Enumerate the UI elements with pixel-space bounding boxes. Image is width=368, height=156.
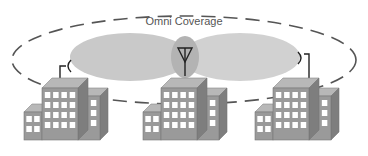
window: [45, 122, 51, 128]
window: [26, 126, 32, 132]
window: [301, 92, 307, 98]
window: [180, 92, 186, 98]
window: [34, 126, 40, 132]
window: [301, 122, 307, 128]
window: [257, 126, 263, 132]
window: [276, 102, 282, 108]
window: [164, 112, 170, 118]
window: [172, 92, 178, 98]
window: [284, 102, 290, 108]
window: [45, 112, 51, 118]
window: [189, 92, 195, 98]
window: [45, 92, 51, 98]
window: [145, 116, 151, 122]
window: [91, 110, 97, 116]
window: [145, 126, 151, 132]
window: [210, 120, 216, 126]
window: [180, 102, 186, 108]
window: [180, 122, 186, 128]
building-right-tower-side: [309, 78, 319, 140]
window: [292, 122, 298, 128]
diagram-title: Omni Coverage: [145, 15, 222, 27]
building-center: [143, 78, 227, 140]
window: [189, 112, 195, 118]
window: [70, 92, 76, 98]
window: [257, 116, 263, 122]
window: [34, 116, 40, 122]
window: [284, 112, 290, 118]
window: [70, 122, 76, 128]
window: [322, 110, 328, 116]
dish-antenna-left-icon: [60, 60, 71, 80]
window: [322, 100, 328, 106]
omni-coverage-diagram: Omni Coverage: [0, 0, 368, 156]
window: [61, 112, 67, 118]
window: [189, 122, 195, 128]
window: [189, 102, 195, 108]
window: [276, 92, 282, 98]
window: [91, 120, 97, 126]
building-right: [255, 78, 339, 140]
window: [210, 100, 216, 106]
window: [284, 122, 290, 128]
window: [53, 122, 59, 128]
window: [61, 122, 67, 128]
building-right-right-wing-side: [331, 88, 339, 140]
window: [53, 92, 59, 98]
window: [210, 110, 216, 116]
window: [284, 92, 290, 98]
window: [301, 112, 307, 118]
building-center-right-wing-side: [219, 88, 227, 140]
window: [301, 102, 307, 108]
window: [26, 116, 32, 122]
window: [70, 112, 76, 118]
window: [61, 102, 67, 108]
window: [172, 102, 178, 108]
window: [53, 112, 59, 118]
building-left: [24, 78, 108, 140]
window: [164, 92, 170, 98]
window: [276, 112, 282, 118]
window: [265, 126, 271, 132]
window: [265, 116, 271, 122]
building-left-right-wing-side: [100, 88, 108, 140]
window: [172, 112, 178, 118]
window: [45, 102, 51, 108]
window: [322, 120, 328, 126]
window: [180, 112, 186, 118]
window: [53, 102, 59, 108]
window: [292, 112, 298, 118]
window: [292, 92, 298, 98]
window: [164, 122, 170, 128]
diagram-canvas: Omni Coverage: [0, 0, 368, 156]
building-left-tower-side: [78, 78, 88, 140]
window: [61, 92, 67, 98]
window: [292, 102, 298, 108]
window: [70, 102, 76, 108]
window: [164, 102, 170, 108]
window: [172, 122, 178, 128]
window: [153, 116, 159, 122]
window: [276, 122, 282, 128]
window: [91, 100, 97, 106]
building-center-tower-side: [197, 78, 207, 140]
window: [153, 126, 159, 132]
